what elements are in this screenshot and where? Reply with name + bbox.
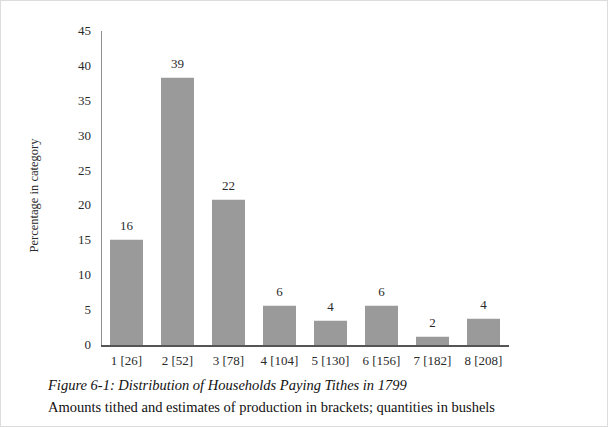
bar[interactable] bbox=[365, 305, 398, 345]
bar-slot: 4 bbox=[305, 31, 356, 345]
x-axis-line bbox=[101, 345, 509, 347]
y-axis-tick: 40 bbox=[47, 58, 91, 74]
y-axis-tick: 25 bbox=[47, 163, 91, 179]
bar-value-label: 6 bbox=[254, 284, 305, 300]
y-axis-tick: 45 bbox=[47, 23, 91, 39]
y-axis-tick: 20 bbox=[47, 197, 91, 213]
caption-subtitle: Amounts tithed and estimates of producti… bbox=[48, 398, 568, 418]
x-axis-tick: 8 [208] bbox=[444, 353, 524, 369]
figure-container: 051015202530354045 Percentage in categor… bbox=[0, 0, 608, 427]
bar-value-label: 22 bbox=[203, 178, 254, 194]
bar-slot: 2 bbox=[407, 31, 458, 345]
bar-slot: 6 bbox=[254, 31, 305, 345]
bar-value-label: 39 bbox=[152, 56, 203, 72]
bar-slot: 6 bbox=[356, 31, 407, 345]
bar[interactable] bbox=[161, 77, 194, 345]
bar-value-label: 4 bbox=[458, 297, 509, 313]
figure-caption: Figure 6-1: Distribution of Households P… bbox=[48, 376, 568, 417]
bar-value-label: 4 bbox=[305, 299, 356, 315]
bar[interactable] bbox=[110, 239, 143, 345]
y-axis-tick: 0 bbox=[47, 337, 91, 353]
bar[interactable] bbox=[263, 305, 296, 345]
y-axis-tick: 35 bbox=[47, 93, 91, 109]
bar-slot: 39 bbox=[152, 31, 203, 345]
bar[interactable] bbox=[212, 199, 245, 345]
bar-slot: 16 bbox=[101, 31, 152, 345]
bar-value-label: 16 bbox=[101, 218, 152, 234]
caption-title: Figure 6-1: Distribution of Households P… bbox=[48, 376, 568, 396]
bar-value-label: 6 bbox=[356, 284, 407, 300]
bar[interactable] bbox=[467, 318, 500, 345]
y-axis-tick: 10 bbox=[47, 267, 91, 283]
y-axis-tick: 30 bbox=[47, 128, 91, 144]
bar[interactable] bbox=[314, 320, 347, 345]
y-axis-tick: 5 bbox=[47, 302, 91, 318]
y-axis-title: Percentage in category bbox=[27, 101, 42, 291]
bar[interactable] bbox=[416, 336, 449, 345]
plot-area: 16392264624 bbox=[101, 31, 509, 345]
bar-value-label: 2 bbox=[407, 315, 458, 331]
bar-slot: 4 bbox=[458, 31, 509, 345]
y-axis-tick: 15 bbox=[47, 232, 91, 248]
bar-slot: 22 bbox=[203, 31, 254, 345]
